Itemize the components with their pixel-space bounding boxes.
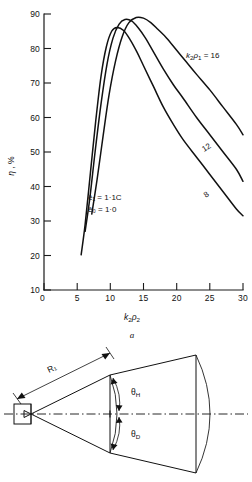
x-tick-label: 25 xyxy=(205,293,215,303)
y-axis-tick-labels: 90 80 70 60 50 40 30 20 10 xyxy=(30,9,40,295)
horn-antenna-diagram: R₁ θH θD xyxy=(0,342,252,482)
panel-a-caption: a xyxy=(130,330,135,340)
x-tick-label: 30 xyxy=(238,293,248,303)
curve-label-k2rho1-8: 8 xyxy=(202,189,211,199)
chart-axis-titles: η , % k2ρ2 a xyxy=(6,156,141,340)
curve-label-k2rho1-12: 12 xyxy=(200,141,213,154)
x-axis-ticks xyxy=(44,283,243,290)
annotation-eps0: ē₀ = 1·0 xyxy=(88,205,117,214)
angle-label-theta-D: θD xyxy=(131,429,141,440)
y-tick-label: 30 xyxy=(30,216,40,226)
x-tick-label: 5 xyxy=(75,293,80,303)
x-tick-label: 0 xyxy=(40,293,45,303)
dimension-label-R1: R₁ xyxy=(45,362,58,375)
figure-root: 90 80 70 60 50 40 30 20 10 0 5 10 15 20 xyxy=(0,0,252,482)
y-tick-label: 90 xyxy=(30,9,40,19)
curve-label-k2rho1-16: k2ρ1 = 16 xyxy=(186,51,220,61)
x-tick-label: 10 xyxy=(105,293,115,303)
x-axis-tick-labels: 0 5 10 15 20 25 30 xyxy=(40,293,248,303)
y-tick-label: 50 xyxy=(30,147,40,157)
y-tick-label: 10 xyxy=(30,285,40,295)
annotation-eps1: ē₁ = 1·1C xyxy=(88,193,122,202)
x-tick-label: 20 xyxy=(172,293,182,303)
y-tick-label: 60 xyxy=(30,113,40,123)
y-tick-label: 70 xyxy=(30,78,40,88)
y-tick-label: 20 xyxy=(30,251,40,261)
y-axis-title: η , % xyxy=(6,156,16,176)
curve-k2rho1-8 xyxy=(81,27,243,254)
angle-label-theta-H: θH xyxy=(131,387,140,398)
efficiency-chart: 90 80 70 60 50 40 30 20 10 0 5 10 15 20 xyxy=(0,0,252,345)
x-axis-title: k2ρ2 xyxy=(124,312,141,323)
x-tick-label: 15 xyxy=(139,293,149,303)
y-tick-label: 40 xyxy=(30,182,40,192)
y-axis-ticks xyxy=(44,14,51,290)
y-tick-label: 80 xyxy=(30,44,40,54)
dimension-R1: R₁ xyxy=(13,347,114,404)
